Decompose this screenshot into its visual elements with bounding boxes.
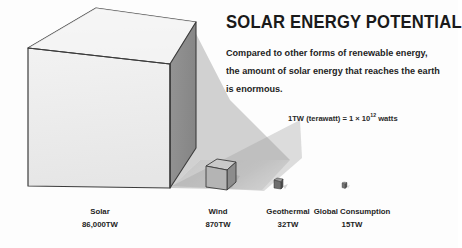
geothermal-cube xyxy=(274,178,288,189)
page-title: SOLAR ENERGY POTENTIAL xyxy=(226,12,462,33)
caption-wind-name: Wind xyxy=(205,206,230,219)
description-line-3: is enormous. xyxy=(226,80,437,98)
caption-global-consumption: Global Consumption 15TW xyxy=(314,206,391,231)
caption-geothermal-name: Geothermal xyxy=(266,206,309,219)
caption-solar-name: Solar xyxy=(82,206,118,219)
caption-wind-value: 870TW xyxy=(205,219,230,232)
caption-solar: Solar 86,000TW xyxy=(82,206,118,231)
caption-solar-value: 86,000TW xyxy=(82,219,118,232)
caption-geothermal: Geothermal 32TW xyxy=(266,206,309,231)
global-consumption-cube xyxy=(342,182,350,189)
description-text: Compared to other forms of renewable ene… xyxy=(226,44,437,98)
caption-global-consumption-name: Global Consumption xyxy=(314,206,391,219)
terawatt-note: 1TW (terawatt) = 1 × 1012 watts xyxy=(288,112,398,123)
description-line-1: Compared to other forms of renewable ene… xyxy=(226,44,437,62)
terawatt-note-suffix: watts xyxy=(376,114,398,123)
caption-global-consumption-value: 15TW xyxy=(314,219,391,232)
solar-cube xyxy=(28,8,196,188)
caption-wind: Wind 870TW xyxy=(205,206,230,231)
description-line-2: the amount of solar energy that reaches … xyxy=(226,62,437,80)
caption-geothermal-value: 32TW xyxy=(266,219,309,232)
terawatt-note-prefix: 1TW (terawatt) = 1 × 10 xyxy=(288,114,370,123)
